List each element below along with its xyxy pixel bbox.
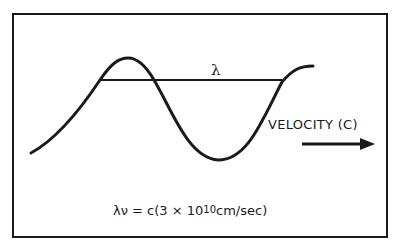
wavelength-label: λ xyxy=(211,61,221,79)
equation-rhs: cm/sec) xyxy=(216,203,267,218)
sine-wave xyxy=(31,58,313,160)
equation-lhs: λν = c(3 × 10 xyxy=(113,203,203,218)
equation-exponent: 10 xyxy=(203,204,216,215)
arrow-right-icon xyxy=(302,138,375,150)
wave-equation: λν = c(3 × 1010cm/sec) xyxy=(113,203,267,218)
velocity-label: VELOCITY (C) xyxy=(268,117,358,132)
